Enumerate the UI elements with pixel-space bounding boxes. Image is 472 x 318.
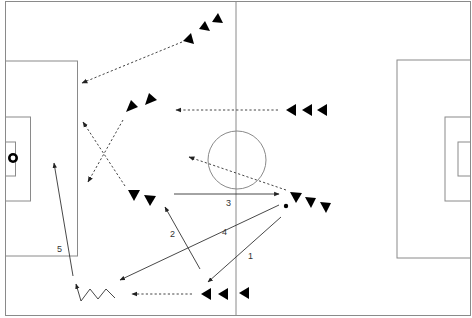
run-cross-b	[83, 122, 125, 186]
right-goal	[458, 142, 471, 176]
pass-1	[208, 217, 281, 282]
player-icon	[290, 192, 302, 203]
center-circle	[208, 131, 266, 189]
run-carrier-to-center	[189, 157, 286, 190]
soccer-pitch-diagram: 1 2 3 4 5	[0, 0, 472, 318]
run-cross-a	[88, 120, 123, 182]
player-icon	[239, 287, 249, 299]
player-icon	[199, 21, 210, 31]
player-icon	[144, 195, 156, 206]
player-icon	[320, 202, 331, 213]
label-2: 2	[170, 229, 175, 239]
label-3: 3	[226, 198, 231, 208]
player-icon	[286, 104, 296, 116]
player-group-bottom-trio	[201, 287, 249, 300]
dashed-runs	[82, 42, 286, 294]
player-icon	[302, 104, 312, 116]
player-group-ball-carrier-trio	[290, 192, 331, 213]
player-icon	[218, 288, 228, 300]
pass-5	[54, 163, 73, 276]
dribble-zigzag	[81, 289, 115, 301]
ball-dot-icon	[284, 204, 288, 208]
player-group-lower-mid-pair	[128, 190, 156, 206]
player-icon	[145, 93, 157, 105]
run-top-to-box	[82, 42, 182, 83]
pass-lines	[54, 163, 281, 301]
player-icon	[305, 197, 316, 208]
pass-number-labels: 1 2 3 4 5	[57, 198, 253, 261]
label-4: 4	[222, 227, 227, 237]
player-group-right-mid-trio	[286, 104, 327, 116]
right-penalty-area	[397, 60, 471, 258]
player-icon	[317, 104, 327, 116]
field-markings	[6, 2, 471, 316]
label-5: 5	[57, 244, 62, 254]
pitch-boundary	[6, 2, 471, 316]
label-1: 1	[248, 251, 253, 261]
soccer-ball-icon	[8, 153, 18, 163]
dribble-up	[76, 284, 81, 301]
player-icon	[128, 190, 140, 201]
player-group-upper-mid-pair	[126, 93, 157, 112]
player-icon	[212, 13, 223, 23]
player-icon	[201, 288, 211, 300]
player-icon	[183, 33, 194, 44]
player-group-top-attackers	[183, 13, 223, 44]
player-icon	[126, 100, 138, 112]
